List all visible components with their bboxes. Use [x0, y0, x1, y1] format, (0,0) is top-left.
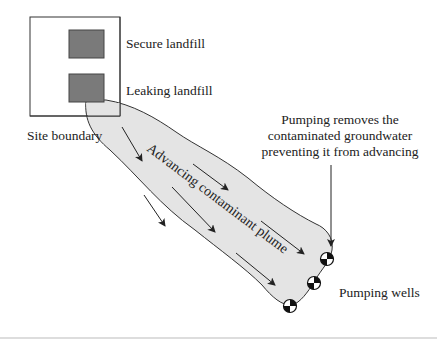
pumping-note-line: preventing it from advancing [250, 144, 430, 160]
pumping-wells-label: Pumping wells [339, 286, 420, 300]
pumping-well-icon [284, 300, 297, 313]
leaking-landfill [69, 74, 104, 102]
pumping-note: Pumping removes the contaminated groundw… [250, 112, 430, 160]
secure-landfill [69, 30, 104, 58]
site-boundary-label: Site boundary [27, 129, 102, 143]
pumping-well-icon [321, 253, 334, 266]
pumping-note-line: Pumping removes the [250, 112, 430, 128]
pumping-well-icon [308, 277, 321, 290]
pumping-note-line: contaminated groundwater [250, 128, 430, 144]
leaking-landfill-label: Leaking landfill [126, 84, 213, 98]
bottom-divider [0, 337, 437, 339]
secure-landfill-label: Secure landfill [126, 37, 205, 51]
